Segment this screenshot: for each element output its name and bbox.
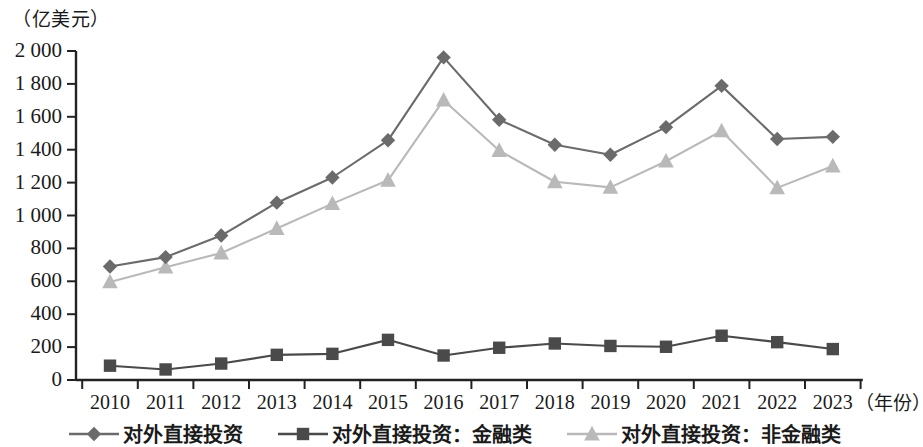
diamond-marker (270, 195, 284, 209)
y-axis-tick-label: 1 600 (15, 106, 62, 127)
diamond-marker (381, 133, 395, 147)
square-marker (604, 340, 616, 352)
triangle-marker (436, 92, 452, 107)
square-marker (104, 359, 116, 371)
legend-label: 对外直接投资：非金融类 (621, 419, 841, 447)
x-axis-caption: （年份） (855, 394, 923, 413)
square-marker (493, 342, 505, 354)
diamond-marker (87, 426, 101, 440)
square-marker (215, 357, 227, 369)
x-axis-tick-label: 2015 (358, 392, 418, 412)
y-axis-tick-label: 200 (31, 336, 63, 357)
x-axis-tick-label: 2016 (414, 392, 474, 412)
y-axis-tick-label: 1 400 (15, 139, 62, 160)
x-axis-tick-label: 2013 (247, 392, 307, 412)
diamond-marker (103, 259, 117, 273)
legend-item: 对外直接投资 (68, 419, 243, 447)
square-marker (271, 349, 283, 361)
triangle-marker (658, 153, 674, 168)
y-axis-tick-label: 400 (31, 303, 63, 324)
y-axis-tick-label: 0 (52, 369, 63, 390)
y-axis-tick-label: 2 000 (15, 40, 62, 61)
x-axis-tick-label: 2019 (580, 392, 640, 412)
x-axis-tick-label: 2020 (636, 392, 696, 412)
x-axis-tick-label: 2018 (525, 392, 585, 412)
diamond-marker (325, 170, 339, 184)
x-axis-tick-label: 2011 (136, 392, 196, 412)
x-axis-tick-label: 2014 (302, 392, 362, 412)
triangle-marker (547, 174, 563, 189)
square-marker (715, 330, 727, 342)
square-marker (827, 343, 839, 355)
diamond-marker (548, 138, 562, 152)
x-axis-tick-label: 2017 (469, 392, 529, 412)
triangle-marker (825, 158, 841, 173)
square-marker (159, 363, 171, 375)
y-axis-tick-label: 1 000 (15, 205, 62, 226)
x-axis-tick-label: 2021 (692, 392, 752, 412)
triangle-marker (213, 245, 229, 260)
y-axis-tick-label: 800 (31, 237, 63, 258)
square-marker (382, 334, 394, 346)
square-marker (771, 336, 783, 348)
triangle-marker (380, 172, 396, 187)
diamond-marker (158, 250, 172, 264)
y-axis-tick-label: 1 200 (15, 172, 62, 193)
legend-item: 对外直接投资：金融类 (277, 419, 532, 447)
diamond-marker (826, 130, 840, 144)
legend-label: 对外直接投资：金融类 (332, 419, 532, 447)
square-marker (549, 337, 561, 349)
legend-item: 对外直接投资：非金融类 (566, 419, 841, 447)
square-marker (277, 424, 329, 444)
x-axis-tick-label: 2022 (747, 392, 807, 412)
series-square (104, 330, 839, 376)
y-axis-tick-label: 600 (31, 270, 63, 291)
square-marker (297, 427, 309, 439)
x-axis-tick-label: 2012 (191, 392, 251, 412)
diamond-marker (603, 148, 617, 162)
diamond-marker (68, 424, 120, 444)
square-marker (326, 348, 338, 360)
square-marker (660, 341, 672, 353)
triangle-marker (714, 123, 730, 138)
y-axis-tick-label: 1 800 (15, 73, 62, 94)
square-marker (437, 349, 449, 361)
diamond-marker (214, 228, 228, 242)
chart-legend: 对外直接投资对外直接投资：金融类对外直接投资：非金融类 (0, 420, 909, 447)
triangle-marker (325, 195, 341, 210)
triangle-marker (269, 220, 285, 235)
x-axis-tick-label: 2010 (80, 392, 140, 412)
triangle-marker (566, 424, 618, 444)
x-axis-tick-label: 2023 (803, 392, 863, 412)
legend-label: 对外直接投资 (123, 419, 243, 447)
series-diamond (103, 50, 840, 273)
series-triangle (102, 92, 840, 288)
